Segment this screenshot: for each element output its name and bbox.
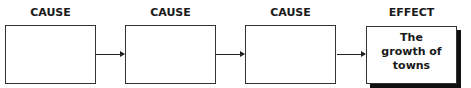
arrow-3: [337, 54, 365, 55]
cause-label-2: CAUSE: [125, 6, 216, 19]
cause-box-2[interactable]: [125, 25, 216, 84]
arrow-1: [96, 54, 124, 55]
effect-label: EFFECT: [366, 6, 457, 19]
cause-label-1: CAUSE: [5, 6, 96, 19]
effect-box: The growth of towns: [366, 26, 457, 84]
cause-box-3[interactable]: [245, 25, 336, 84]
cause-box-1[interactable]: [5, 25, 96, 84]
arrow-2: [216, 54, 244, 55]
cause-label-3: CAUSE: [245, 6, 336, 19]
effect-text: The growth of towns: [377, 31, 447, 73]
